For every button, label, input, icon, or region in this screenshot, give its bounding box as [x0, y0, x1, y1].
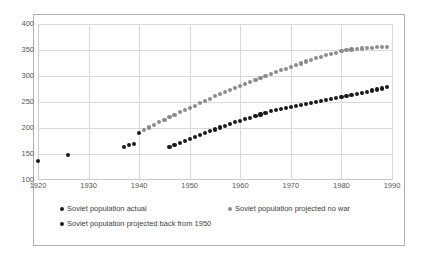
x-axis-tick-1920: 1920	[21, 182, 55, 190]
legend-item-actual[interactable]: Soviet population actual	[60, 205, 147, 213]
chart-legend: Soviet population actual Soviet populati…	[38, 205, 400, 235]
plot-area	[38, 24, 392, 180]
data-point	[253, 114, 257, 118]
data-point	[360, 46, 364, 50]
data-point	[349, 47, 353, 51]
legend-label: Soviet population projected no war	[235, 205, 350, 213]
data-point	[269, 72, 273, 76]
data-point	[360, 91, 364, 95]
gridline-v-1980	[341, 24, 342, 180]
data-point	[208, 97, 212, 101]
gridline-h-250	[38, 102, 392, 103]
data-point	[198, 101, 202, 105]
x-axis-tick-1980: 1980	[324, 182, 358, 190]
data-point	[253, 78, 257, 82]
data-point	[289, 65, 293, 69]
data-point	[304, 59, 308, 63]
x-axis-tick-1940: 1940	[122, 182, 156, 190]
data-point	[375, 87, 379, 91]
data-point	[365, 46, 369, 50]
data-point	[355, 47, 359, 51]
data-point	[385, 85, 389, 89]
gridline-h-150	[38, 154, 392, 155]
data-point	[36, 159, 40, 163]
y-axis-tick-400: 400	[8, 20, 34, 28]
chart-screenshot: 100150200250300350400 192019301940195019…	[0, 0, 436, 261]
data-point	[132, 142, 136, 146]
y-axis-tick-350: 350	[8, 46, 34, 54]
y-axis-tick-150: 150	[8, 150, 34, 158]
data-point	[137, 131, 141, 135]
data-point	[355, 92, 359, 96]
data-point	[258, 112, 262, 116]
data-point	[172, 113, 176, 117]
x-axis-tick-labels: 19201930194019501960197019801990	[38, 182, 392, 196]
data-point	[193, 135, 197, 139]
data-point	[213, 127, 217, 131]
y-axis-tick-labels: 100150200250300350400	[4, 24, 34, 180]
x-axis-tick-1930: 1930	[72, 182, 106, 190]
y-axis-tick-200: 200	[8, 124, 34, 132]
legend-item-projected-back[interactable]: Soviet population projected back from 19…	[60, 220, 211, 228]
legend-row-1: Soviet population actual Soviet populati…	[38, 205, 400, 220]
legend-marker-icon	[60, 207, 64, 211]
data-point	[167, 145, 171, 149]
data-point	[365, 90, 369, 94]
data-point	[188, 137, 192, 141]
gridline-v-1970	[291, 24, 292, 180]
data-point	[299, 61, 303, 65]
legend-marker-icon	[228, 207, 232, 211]
legend-row-2: Soviet population projected back from 19…	[38, 220, 400, 235]
data-point	[344, 94, 348, 98]
data-point	[370, 46, 374, 50]
y-axis-tick-300: 300	[8, 72, 34, 80]
x-axis-tick-1970: 1970	[274, 182, 308, 190]
data-point	[370, 88, 374, 92]
data-point	[385, 45, 389, 49]
gridline-v-1950	[190, 24, 191, 180]
data-point	[162, 118, 166, 122]
data-point	[167, 115, 171, 119]
data-point	[147, 125, 151, 129]
data-point	[203, 99, 207, 103]
data-point	[178, 141, 182, 145]
data-point	[172, 143, 176, 147]
legend-marker-icon	[60, 222, 64, 226]
gridline-v-1940	[139, 24, 140, 180]
gridline-h-400	[38, 24, 392, 25]
data-point	[339, 49, 343, 53]
data-point	[218, 125, 222, 129]
data-point	[263, 74, 267, 78]
legend-label: Soviet population projected back from 19…	[67, 220, 211, 228]
data-point	[339, 95, 343, 99]
data-point	[258, 76, 262, 80]
data-point	[193, 104, 197, 108]
y-axis-tick-250: 250	[8, 98, 34, 106]
legend-label: Soviet population actual	[67, 205, 147, 213]
data-point	[188, 106, 192, 110]
data-point	[380, 86, 384, 90]
gridline-v-1930	[89, 24, 90, 180]
x-axis-tick-1960: 1960	[223, 182, 257, 190]
data-point	[198, 133, 202, 137]
gridline-h-300	[38, 76, 392, 77]
legend-item-projected-no-war[interactable]: Soviet population projected no war	[228, 205, 350, 213]
data-point	[344, 48, 348, 52]
x-axis-tick-1990: 1990	[375, 182, 409, 190]
data-point	[183, 139, 187, 143]
data-point	[349, 93, 353, 97]
data-point	[284, 67, 288, 71]
x-axis-tick-1950: 1950	[173, 182, 207, 190]
gridline-v-1960	[240, 24, 241, 180]
gridline-v-1990	[392, 24, 393, 180]
data-point	[122, 145, 126, 149]
data-point	[263, 111, 267, 115]
